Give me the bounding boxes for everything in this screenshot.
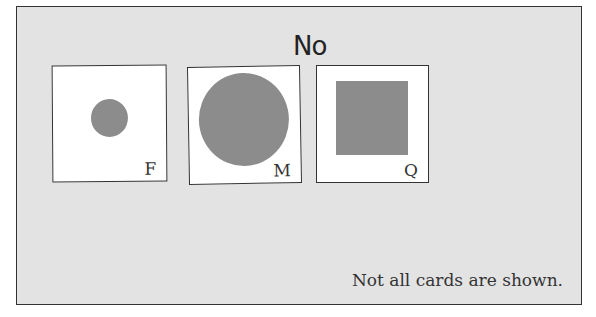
small-circle-shape xyxy=(91,99,128,137)
card-m: M xyxy=(187,65,302,185)
footnote: Not all cards are shown. xyxy=(352,270,563,290)
card-f: F xyxy=(52,65,168,183)
card-q: Q xyxy=(316,65,429,183)
group-heading: No xyxy=(293,31,326,61)
large-circle-shape xyxy=(198,72,290,167)
card-label: Q xyxy=(404,160,418,180)
square-shape xyxy=(336,81,408,155)
card-label: F xyxy=(144,159,156,179)
card-label: M xyxy=(273,160,291,180)
diagram-panel: No F M Q Not all cards are shown. xyxy=(16,6,582,305)
